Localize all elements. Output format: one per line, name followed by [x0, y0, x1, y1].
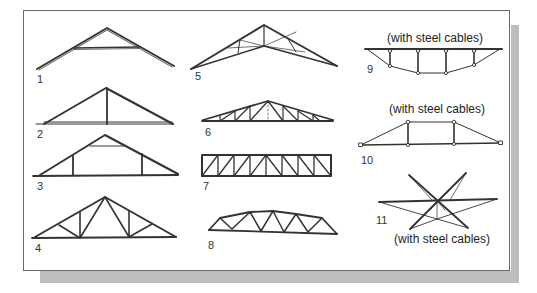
truss-8-drawing: [209, 211, 337, 234]
truss-4-drawing: [32, 197, 176, 238]
truss-label-2: 2: [37, 129, 43, 140]
truss-5-drawing: [191, 25, 337, 69]
truss-2-drawing: [36, 88, 173, 124]
truss-10-drawing: [359, 120, 503, 146]
caption-truss-10: (with steel cables): [389, 103, 485, 115]
truss-3-drawing: [33, 135, 178, 176]
truss-label-3: 3: [37, 181, 43, 192]
truss-label-5: 5: [195, 71, 201, 82]
truss-6-drawing: [202, 101, 333, 121]
truss-label-11: 11: [376, 215, 387, 226]
truss-label-8: 8: [208, 240, 214, 251]
truss-label-1: 1: [37, 74, 43, 85]
truss-label-6: 6: [205, 127, 211, 138]
truss-label-10: 10: [361, 155, 373, 166]
truss-label-9: 9: [367, 64, 373, 75]
caption-truss-9: (with steel cables): [387, 32, 483, 44]
truss-label-7: 7: [203, 181, 209, 192]
truss-7-drawing: [202, 155, 331, 176]
caption-truss-11: (with steel cables): [394, 233, 490, 245]
truss-11-drawing: [379, 173, 497, 229]
truss-9-drawing: [365, 49, 502, 75]
truss-1-drawing: [37, 28, 174, 70]
truss-label-4: 4: [35, 243, 41, 254]
